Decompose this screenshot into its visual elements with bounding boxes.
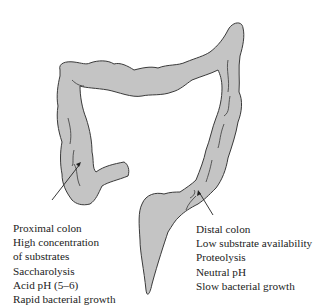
proximal-line-4: Saccharolysis — [13, 264, 116, 278]
proximal-line-5: Acid pH (5–6) — [13, 278, 116, 292]
proximal-line-2: High concentration — [13, 235, 116, 249]
distal-line-3: Proteolysis — [196, 250, 312, 264]
distal-line-1: Distal colon — [196, 222, 312, 236]
proximal-line-6: Rapid bacterial growth — [13, 292, 116, 306]
proximal-line-3: of substrates — [13, 249, 116, 263]
proximal-colon-annotation: Proximal colon High concentration of sub… — [13, 221, 116, 306]
distal-line-5: Slow bacterial growth — [196, 279, 312, 293]
distal-line-2: Low substrate availability — [196, 236, 312, 250]
distal-colon-annotation: Distal colon Low substrate availability … — [196, 222, 312, 293]
distal-line-4: Neutral pH — [196, 265, 312, 279]
proximal-line-1: Proximal colon — [13, 221, 116, 235]
